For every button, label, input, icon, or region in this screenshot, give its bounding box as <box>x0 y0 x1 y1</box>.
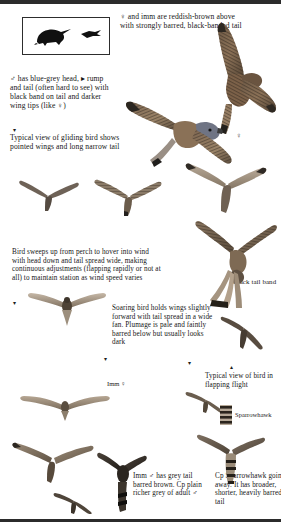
figure-gliding-silhouette-centre <box>92 176 166 218</box>
pointer-down-icon-imm: ▾ <box>188 360 191 366</box>
figure-kestrel-flying-away-small <box>220 316 266 352</box>
figure-sparrowhawk-going-away <box>196 432 266 486</box>
label-sparrowhawk: Sparrowhawk <box>235 411 272 419</box>
pointer-down-icon-gliding: ▾ <box>13 127 16 133</box>
figure-immature-female-underside <box>16 392 112 422</box>
figure-sparrowhawk-tail-detail <box>218 404 234 426</box>
label-immature-female: Imm ♀ <box>107 380 126 388</box>
figure-kestrel-soaring-underside <box>26 286 108 328</box>
caption-soaring: Soaring bird holds wings slightly forwar… <box>112 304 218 347</box>
field-guide-plate: ♀ and imm are reddish-brown above with s… <box>0 0 281 522</box>
caption-hovering: Bird sweeps up from perch to hover into … <box>12 248 162 282</box>
figure-kestrel-hovering <box>188 214 280 310</box>
pointer-down-icon-soar: ▾ <box>104 356 107 362</box>
figure-kestrel-underside-bottom-left <box>10 440 96 484</box>
silhouette-box <box>22 17 110 55</box>
figure-immature-male-bottom <box>96 452 148 514</box>
figure-gliding-silhouette-left <box>18 178 82 212</box>
pointer-up-icon-flapping: ▴ <box>230 364 233 370</box>
figure-kestrel-silhouette-bottom <box>54 492 94 516</box>
caption-flapping: Typical view of bird in flapping flight <box>205 372 281 389</box>
perched-bird-silhouette <box>34 29 71 46</box>
caption-gliding: Typical view of gliding bird shows point… <box>10 133 126 151</box>
top-rule <box>0 0 281 4</box>
flying-bird-silhouette <box>81 30 101 38</box>
figure-gliding-underside-right <box>182 158 272 216</box>
pointer-down-icon-hover: ▾ <box>13 300 16 306</box>
caption-male: ♂ has blue-grey head, ▸ rump and tail (o… <box>10 74 114 110</box>
